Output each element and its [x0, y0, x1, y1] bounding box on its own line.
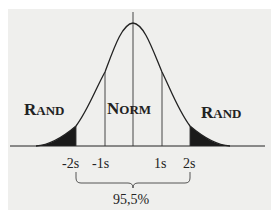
tick-label-minus-2s: -2s — [62, 156, 79, 171]
center-region-label: NORM — [107, 99, 151, 118]
range-bracket — [76, 172, 190, 188]
bracket-percentage-label: 95,5% — [113, 192, 150, 207]
normal-distribution-diagram: RAND NORM RAND -2s -1s 1s 2s 95,5% — [0, 0, 277, 221]
left-tail-shaded-area — [36, 126, 76, 146]
right-tail-shaded-area — [190, 126, 230, 146]
tick-label-minus-1s: -1s — [92, 156, 109, 171]
right-tail-label: RAND — [201, 103, 241, 122]
left-tail-label: RAND — [24, 100, 64, 119]
tick-label-plus-1s: 1s — [154, 156, 166, 171]
tick-label-plus-2s: 2s — [183, 156, 195, 171]
